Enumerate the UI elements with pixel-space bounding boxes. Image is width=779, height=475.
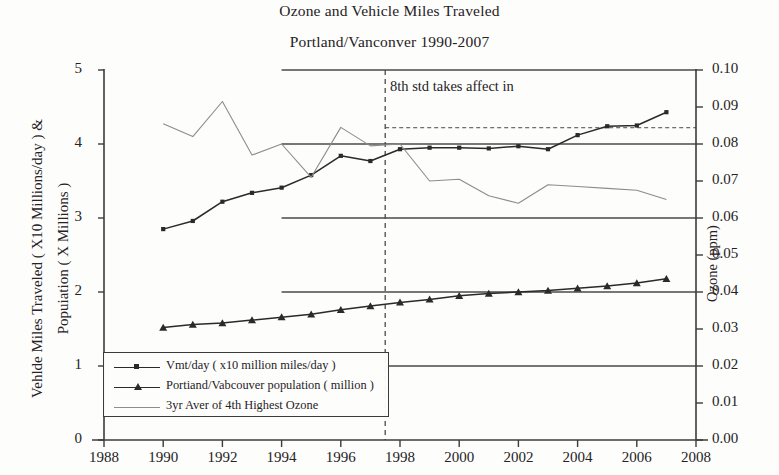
data-point-vmt-1991 [191, 219, 195, 223]
data-point-vmt-2000 [457, 146, 461, 150]
x-tick-label-1996: 1996 [311, 449, 371, 466]
y-right-tick-label-0.08: 0.08 [712, 134, 772, 151]
data-point-vmt-2001 [487, 146, 491, 150]
data-point-vmt-1993 [250, 191, 254, 195]
x-tick-label-2000: 2000 [429, 449, 489, 466]
series-line-diamond [163, 112, 666, 229]
data-point-vmt-1994 [280, 186, 284, 190]
y-left-tick-label-5: 5 [42, 60, 82, 77]
data-point-vmt-1990 [161, 227, 165, 231]
x-tick-label-2004: 2004 [548, 449, 608, 466]
data-point-vmt-2005 [605, 124, 609, 128]
y-left-tick-label-3: 3 [42, 208, 82, 225]
x-tick-label-1998: 1998 [370, 449, 430, 466]
x-tick-label-1990: 1990 [133, 449, 193, 466]
data-point-vmt-2004 [576, 133, 580, 137]
series-line-none-ozone [163, 102, 666, 204]
legend-label-3: 3yr Aver of 4th Highest Ozone [166, 398, 318, 413]
y-right-tick-label-0.02: 0.02 [712, 356, 772, 373]
series-line-triangle [163, 279, 666, 328]
y-right-tick-label-0.05: 0.05 [712, 245, 772, 262]
x-tick-label-2002: 2002 [488, 449, 548, 466]
data-point-vmt-1998 [398, 147, 402, 151]
chart-legend: Vmt/day ( x10 million miles/day )Portian… [103, 352, 389, 417]
y-right-tick-label-0.09: 0.09 [712, 97, 772, 114]
y-left-tick-label-4: 4 [42, 134, 82, 151]
y-left-tick-label-1: 1 [42, 356, 82, 373]
y-right-tick-label-0.01: 0.01 [712, 393, 772, 410]
data-point-vmt-2003 [546, 147, 550, 151]
legend-line-plain-line [114, 407, 160, 408]
y-right-tick-label-0.07: 0.07 [712, 171, 772, 188]
x-tick-label-1992: 1992 [192, 449, 252, 466]
y-right-tick-label-0.00: 0.00 [712, 430, 772, 447]
x-tick-label-1988: 1988 [74, 449, 134, 466]
data-point-vmt-1992 [220, 200, 224, 204]
y-right-tick-label-0.04: 0.04 [712, 282, 772, 299]
x-tick-label-2008: 2008 [666, 449, 726, 466]
data-point-vmt-1997 [368, 159, 372, 163]
legend-label-2: Portiand/Vabcouver population ( million … [166, 378, 374, 393]
data-point-vmt-1996 [339, 154, 343, 158]
y-right-tick-label-0.10: 0.10 [712, 60, 772, 77]
legend-label-1: Vmt/day ( x10 million miles/day ) [166, 358, 336, 373]
legend-triangle-marker [134, 383, 142, 390]
data-point-vmt-2002 [516, 144, 520, 148]
x-tick-label-1994: 1994 [252, 449, 312, 466]
y-left-tick-label-0: 0 [42, 430, 82, 447]
y-right-tick-label-0.03: 0.03 [712, 319, 772, 336]
chart-figure: Ozone and Vehicle Miles Traveled Portlan… [0, 0, 779, 475]
data-point-vmt-1999 [428, 146, 432, 150]
x-tick-label-2006: 2006 [607, 449, 667, 466]
y-left-tick-label-2: 2 [42, 282, 82, 299]
legend-diamond-marker [134, 364, 139, 369]
data-point-vmt-2006 [635, 123, 639, 127]
y-right-tick-label-0.06: 0.06 [712, 208, 772, 225]
data-point-vmt-2007 [664, 110, 668, 114]
